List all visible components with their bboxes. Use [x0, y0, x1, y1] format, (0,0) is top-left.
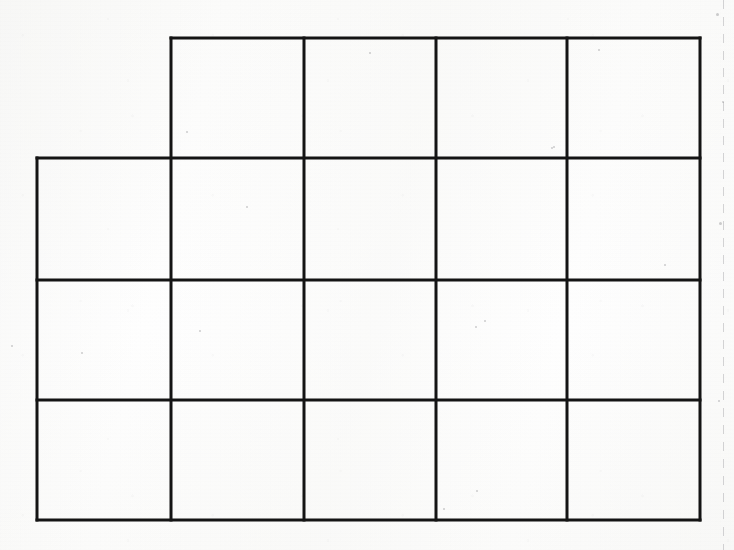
grid-cell-r0-c1[interactable] [306, 40, 435, 157]
grid-cell-r1-c3[interactable] [438, 160, 566, 279]
grid-cell-r3-c3[interactable] [438, 402, 566, 519]
grid-cell-r0-c3[interactable] [569, 40, 699, 157]
grid-cell-r1-c4[interactable] [569, 160, 699, 279]
grid-cell-r3-c2[interactable] [306, 402, 435, 519]
grid-cell-r2-c4[interactable] [569, 282, 699, 399]
grid-cell-r1-c0[interactable] [39, 160, 170, 279]
grid-cell-r0-c0[interactable] [173, 40, 303, 157]
grid-cell-r3-c4[interactable] [569, 402, 699, 519]
grid-cell-r0-c2[interactable] [438, 40, 566, 157]
grid-cell-r2-c1[interactable] [173, 282, 303, 399]
grid-cell-r2-c0[interactable] [39, 282, 170, 399]
grid-cell-r3-c0[interactable] [39, 402, 170, 519]
grid-cell-r3-c1[interactable] [173, 402, 303, 519]
scanned-worksheet-page [0, 0, 734, 550]
grid-cell-r1-c2[interactable] [306, 160, 435, 279]
grid-cell-r2-c3[interactable] [438, 282, 566, 399]
grid-cell-r2-c2[interactable] [306, 282, 435, 399]
grid-cell-r1-c1[interactable] [173, 160, 303, 279]
